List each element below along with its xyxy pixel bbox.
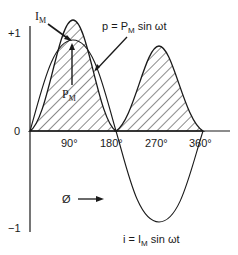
- y-tick-minus1: −1: [8, 222, 21, 234]
- power-curve-hump-2: [116, 46, 203, 131]
- phi-label: Ø: [62, 193, 71, 205]
- power-equation: p = PM sin ωt: [102, 20, 167, 35]
- y-tick-plus1: +1: [8, 27, 21, 39]
- x-tick-180: 180°: [100, 137, 123, 149]
- x-tick-270: 270°: [145, 137, 168, 149]
- current-equation: i = IM sin ωt: [123, 233, 180, 248]
- y-tick-0: 0: [14, 125, 20, 137]
- power-eq-pointer: [96, 37, 127, 70]
- power-curve-hump-1: [30, 20, 116, 131]
- arrowhead-icon: [94, 64, 100, 72]
- im-label: IM: [35, 9, 46, 25]
- power-current-diagram: +1 0 −1 90° 180° 270° 360° Ø IM PM p = P…: [0, 0, 238, 255]
- x-tick-360: 360°: [189, 137, 212, 149]
- arrowhead-icon: [96, 196, 104, 202]
- x-tick-90: 90°: [61, 137, 78, 149]
